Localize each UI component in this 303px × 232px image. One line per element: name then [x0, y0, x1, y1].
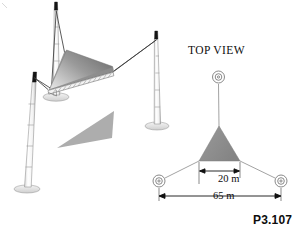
pole-left-cap — [32, 72, 36, 82]
scan-artifact-mark — [2, 3, 7, 8]
cable-top — [219, 84, 220, 127]
top-view-canopy-triangle — [199, 126, 240, 161]
cable-right — [240, 161, 275, 178]
pole-left — [14, 72, 40, 193]
pole-center-cap — [54, 2, 57, 10]
cable-left — [165, 161, 199, 178]
figure-number-tag: P3.107 — [253, 213, 292, 227]
dimension-65m-label: 65 m — [213, 190, 234, 201]
dimension-20m-label: 20 m — [218, 173, 239, 184]
anchor-right-icon — [275, 175, 287, 187]
figure-illustration — [0, 0, 303, 232]
top-view-label: TOP VIEW — [188, 44, 245, 56]
anchor-left-icon — [153, 175, 165, 187]
figure-container: TOP VIEW 20 m 65 m P3.107 — [0, 0, 303, 232]
pole-right-cap — [155, 31, 158, 39]
anchor-top-icon — [213, 71, 225, 83]
canopy-ground-shadow — [57, 111, 114, 148]
